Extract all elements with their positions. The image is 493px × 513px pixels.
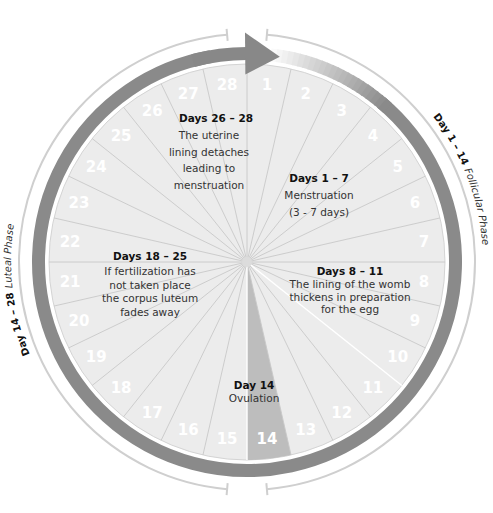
phase-name: Luteal Phase [2,223,16,289]
center-hub [242,257,252,267]
note-line: not taken place [109,279,191,291]
cycle-wheel: 1234567891011121314151617181920212223242… [0,0,493,513]
bracket-tick [227,483,228,495]
note-line: thickens in preparation [289,291,410,303]
note-line: Menstruation [284,189,353,201]
bracket-tick [266,483,267,495]
day-number-7: 7 [419,233,429,251]
day-number-10: 10 [387,348,408,366]
day-number-21: 21 [60,273,81,291]
note-days-26-28: Days 26 – 28 The uterine lining detaches… [169,112,253,191]
note-line: fades away [120,306,180,318]
note-line: leading to [183,162,236,174]
phase-name: Follicular Phase [462,166,491,245]
day-number-22: 22 [60,233,81,251]
day-number-25: 25 [111,127,132,145]
day-number-8: 8 [419,273,429,291]
note-day-14: Day 14 Ovulation [229,379,280,404]
note-title: Days 26 – 28 [179,112,253,124]
day-number-24: 24 [86,158,107,176]
day-number-23: 23 [69,194,90,212]
day-number-11: 11 [362,379,383,397]
note-title: Days 8 – 11 [317,265,384,277]
day-number-26: 26 [142,102,163,120]
note-title: Days 18 – 25 [113,250,187,262]
bracket-tick [227,29,228,41]
day-number-16: 16 [178,421,199,439]
day-number-9: 9 [410,312,420,330]
note-line: menstruation [174,179,244,191]
day-number-19: 19 [86,348,107,366]
note-line: If fertilization has [104,265,195,277]
menstrual-cycle-diagram: 1234567891011121314151617181920212223242… [0,0,493,513]
day-number-6: 6 [410,194,420,212]
day-number-12: 12 [331,404,352,422]
day-number-4: 4 [368,127,378,145]
ring-fade [382,103,387,108]
day-number-27: 27 [178,85,199,103]
phase-label-luteal: Day 14 – 28Luteal Phase [2,223,32,358]
note-line: for the egg [321,303,379,315]
day-number-14: 14 [256,430,277,448]
note-line: (3 - 7 days) [289,206,349,218]
note-line: The lining of the womb [289,278,411,290]
day-number-15: 15 [217,430,238,448]
note-line: lining detaches [169,146,249,158]
svg-text:Day 14 – 28Luteal Phase: Day 14 – 28Luteal Phase [2,223,32,358]
day-number-20: 20 [69,312,90,330]
note-line: the corpus luteum [102,292,198,304]
day-number-1: 1 [262,76,272,94]
note-line: Ovulation [229,392,280,404]
note-title: Days 1 – 7 [289,172,348,184]
day-number-2: 2 [301,85,311,103]
note-line: The uterine [178,129,239,141]
day-number-3: 3 [336,102,346,120]
note-title: Day 14 [234,379,275,391]
day-number-17: 17 [142,404,163,422]
bracket-tick [266,29,267,41]
day-number-13: 13 [295,421,316,439]
day-number-18: 18 [111,379,132,397]
note-days-1-7: Days 1 – 7 Menstruation (3 - 7 days) [284,172,353,218]
day-number-28: 28 [217,76,238,94]
day-number-5: 5 [392,158,402,176]
